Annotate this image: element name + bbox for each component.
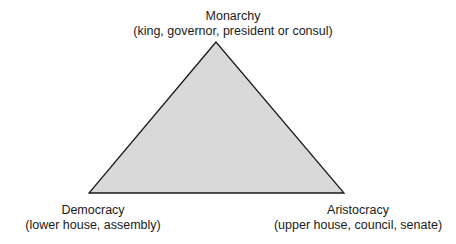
aristocracy-title: Aristocracy	[258, 203, 456, 218]
vertex-label-monarchy: Monarchy (king, governor, president or c…	[108, 9, 358, 39]
vertex-label-democracy: Democracy (lower house, assembly)	[0, 203, 188, 233]
aristocracy-subtitle: (upper house, council, senate)	[258, 218, 456, 233]
monarchy-title: Monarchy	[108, 9, 358, 24]
vertex-label-aristocracy: Aristocracy (upper house, council, senat…	[258, 203, 456, 233]
triangle-shape	[89, 42, 344, 193]
democracy-subtitle: (lower house, assembly)	[0, 218, 188, 233]
democracy-title: Democracy	[0, 203, 188, 218]
monarchy-subtitle: (king, governor, president or consul)	[108, 24, 358, 39]
